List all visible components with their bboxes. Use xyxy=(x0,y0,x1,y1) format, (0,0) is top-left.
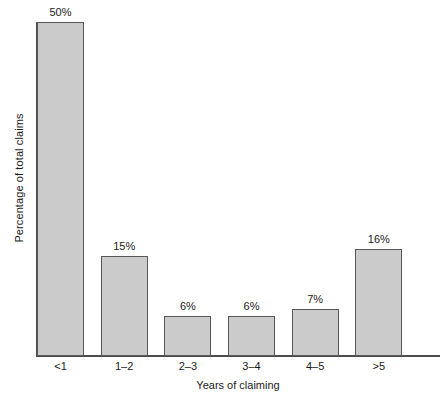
x-tick-label: 3–4 xyxy=(228,360,275,372)
bar xyxy=(101,256,148,356)
bar xyxy=(37,22,84,356)
x-tick-label: 1–2 xyxy=(101,360,148,372)
y-axis-label: Percentage of total claims xyxy=(13,113,25,242)
x-tick-label: 2–3 xyxy=(164,360,211,372)
bar xyxy=(292,309,339,356)
bar-value-label: 6% xyxy=(180,300,196,312)
x-tick-label: <1 xyxy=(37,360,84,372)
x-tick-label: 4–5 xyxy=(292,360,339,372)
bar-value-label: 6% xyxy=(244,300,260,312)
bar-value-label: 7% xyxy=(307,293,323,305)
bar xyxy=(164,316,211,356)
bar-group: 6% xyxy=(164,0,211,356)
plot-area: 50%15%6%6%7%16% xyxy=(36,0,440,356)
x-tick-label: >5 xyxy=(355,360,402,372)
bar xyxy=(355,249,402,356)
bar-value-label: 16% xyxy=(368,233,390,245)
bar-value-label: 15% xyxy=(113,240,135,252)
bar-chart-figure: Percentage of total claims 50%15%6%6%7%1… xyxy=(0,0,447,401)
bar-group: 7% xyxy=(292,0,339,356)
bar-group: 15% xyxy=(101,0,148,356)
x-axis-tick-labels: <11–22–33–44–5>5 xyxy=(36,360,440,378)
bar-group: 16% xyxy=(355,0,402,356)
bar xyxy=(228,316,275,356)
bar-group: 6% xyxy=(228,0,275,356)
y-axis-label-container: Percentage of total claims xyxy=(8,0,30,356)
bar-value-label: 50% xyxy=(49,6,71,18)
x-axis-title: Years of claiming xyxy=(36,379,440,391)
bar-group: 50% xyxy=(37,0,84,356)
